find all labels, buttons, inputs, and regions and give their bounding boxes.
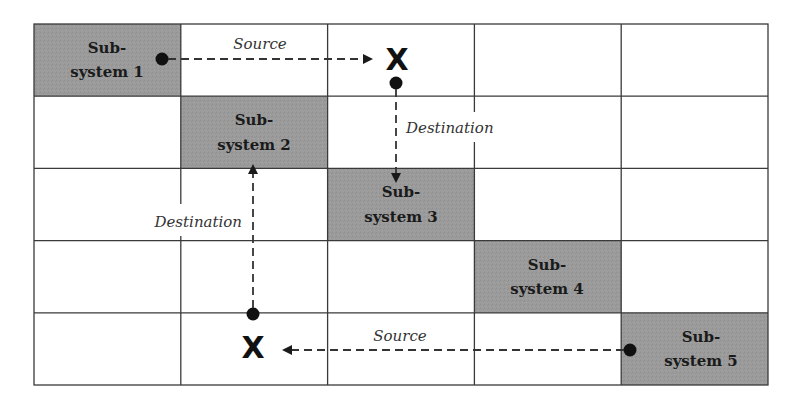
source-label: Source [373, 327, 427, 345]
subsystem-1-label: system 1 [70, 63, 144, 81]
subsystem-3-cell [328, 168, 475, 240]
source-label: Source [233, 35, 287, 53]
subsystem-2-cell [181, 96, 328, 168]
subsystem-5-label: system 5 [664, 352, 738, 370]
subsystem-1-label: Sub- [88, 39, 126, 57]
subsystem-4-label: system 4 [510, 280, 584, 298]
subsystem-5-cell [621, 313, 768, 385]
subsystem-2-label: Sub- [235, 111, 273, 129]
x-mark-icon: X [385, 42, 408, 77]
subsystem-3-label: Sub- [382, 183, 420, 201]
x-mark-icon: X [241, 330, 264, 365]
subsystem-2-label: system 2 [217, 136, 291, 154]
subsystem-4-cell [474, 241, 621, 313]
destination-label: Destination [153, 213, 242, 231]
source-dot-icon [156, 53, 169, 66]
destination-dot-icon [247, 308, 260, 321]
source-dot-icon [624, 344, 637, 357]
destination-dot-icon [390, 77, 403, 90]
subsystem-3-label: system 3 [364, 208, 438, 226]
subsystem-4-label: Sub- [528, 256, 566, 274]
destination-label: Destination [405, 119, 494, 137]
subsystem-5-label: Sub- [682, 328, 720, 346]
subsystem-grid-diagram: Sub- system 1 Sub- system 2 Sub- system … [0, 0, 802, 405]
